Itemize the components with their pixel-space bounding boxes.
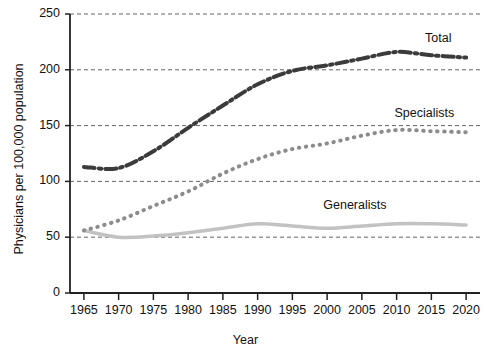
series-label-total: Total [425, 31, 451, 45]
physicians-per-100k-line-chart: Physicians per 100,000 population Year 0… [0, 0, 491, 359]
y-tick-label-200: 200 [0, 62, 60, 76]
series-label-generalists: Generalists [323, 198, 386, 212]
y-tick-label-50: 50 [0, 229, 60, 243]
y-tick-label-150: 150 [0, 118, 60, 132]
y-tick-label-100: 100 [0, 173, 60, 187]
y-tick-label-250: 250 [0, 6, 60, 20]
series-label-specialists: Specialists [395, 106, 455, 120]
y-tick-label-0: 0 [0, 285, 60, 299]
x-axis-title: Year [0, 333, 491, 347]
x-tick-label-2020: 2020 [436, 303, 491, 317]
series-line-generalists [84, 224, 466, 238]
series-line-specialists [84, 130, 466, 231]
